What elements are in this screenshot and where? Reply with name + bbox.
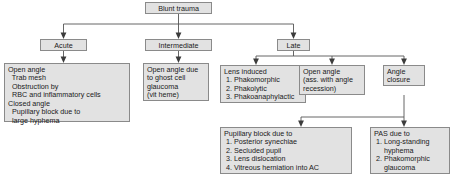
node-blunt-trauma[interactable]: Blunt trauma (145, 2, 212, 14)
node-acute-detail[interactable]: Open angle Trab mesh Obstruction by RBC … (4, 63, 130, 122)
node-intermediate[interactable]: Intermediate (145, 39, 212, 51)
node-late[interactable]: Late (277, 39, 310, 51)
node-pas[interactable]: PAS due to 1. Long-standing hyphema 2. P… (370, 127, 450, 174)
node-pupillary-block[interactable]: Pupillary block due to 1. Posterior syne… (220, 127, 352, 174)
node-open-angle-recession[interactable]: Open angle (ass. with angle recession) (299, 65, 365, 95)
node-angle-closure[interactable]: Angle closure (383, 65, 425, 86)
node-intermediate-detail[interactable]: Open angle due to ghost cell glaucoma (v… (143, 63, 209, 101)
flowchart-canvas: Blunt trauma Acute Intermediate Late Ope… (0, 0, 454, 184)
node-acute[interactable]: Acute (40, 39, 87, 51)
node-lens-induced[interactable]: Lens induced 1. Phakomorphic 2. Phakolyt… (220, 65, 306, 103)
